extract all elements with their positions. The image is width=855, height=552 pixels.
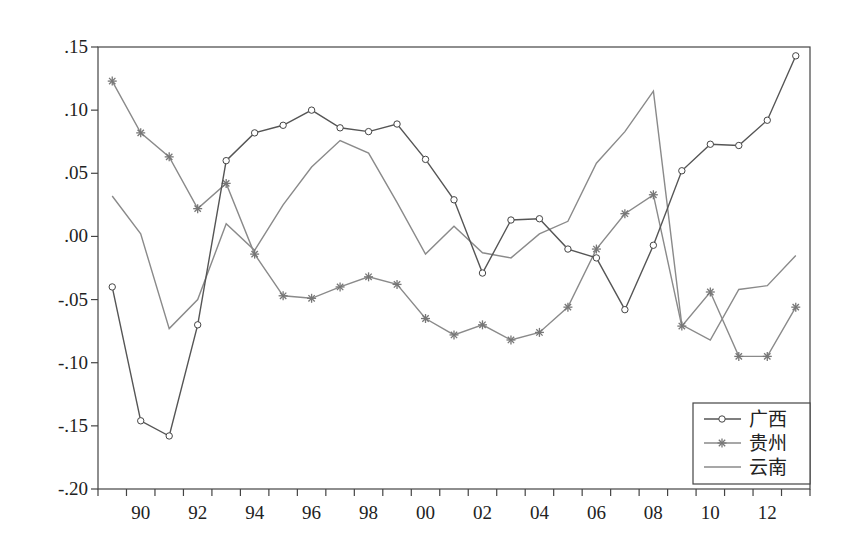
y-tick-label: -.20 xyxy=(58,478,88,499)
series-star xyxy=(108,77,801,361)
x-tick-label: 90 xyxy=(131,502,150,523)
y-axis: .15.10.05.00-.05-.10-.15-.20 xyxy=(58,36,98,499)
x-tick-label: 12 xyxy=(758,502,777,523)
x-tick-label: 92 xyxy=(188,502,207,523)
x-tick-label: 06 xyxy=(587,502,606,523)
x-tick-label: 94 xyxy=(245,502,265,523)
x-tick-label: 02 xyxy=(473,502,492,523)
series-plain xyxy=(112,91,796,340)
y-tick-label: .00 xyxy=(64,225,88,246)
series-layer xyxy=(108,53,801,440)
y-tick-label: .05 xyxy=(64,162,88,183)
x-tick-label: 04 xyxy=(530,502,550,523)
y-tick-label: -.10 xyxy=(58,352,88,373)
y-tick-label: -.05 xyxy=(58,289,88,310)
circle-marker-icon xyxy=(719,416,725,422)
legend-label: 云南 xyxy=(749,456,787,478)
legend-label: 广西 xyxy=(749,408,787,430)
series-circle xyxy=(109,53,799,440)
y-tick-label: -.15 xyxy=(58,415,88,436)
x-tick-label: 96 xyxy=(302,502,321,523)
x-tick-label: 10 xyxy=(701,502,720,523)
y-tick-label: .15 xyxy=(64,36,88,57)
legend-label: 贵州 xyxy=(749,432,787,454)
x-tick-label: 98 xyxy=(359,502,378,523)
y-tick-label: .10 xyxy=(64,99,88,120)
x-tick-label: 08 xyxy=(644,502,663,523)
x-tick-label: 00 xyxy=(416,502,435,523)
chart-canvas: .15.10.05.00-.05-.10-.15-.20 90929496980… xyxy=(0,0,855,552)
x-axis: 909294969800020406081012 xyxy=(98,489,810,523)
legend: 广西 贵州 云南 xyxy=(693,403,810,484)
line-chart: .15.10.05.00-.05-.10-.15-.20 90929496980… xyxy=(0,0,855,552)
star-marker-icon xyxy=(718,439,727,448)
